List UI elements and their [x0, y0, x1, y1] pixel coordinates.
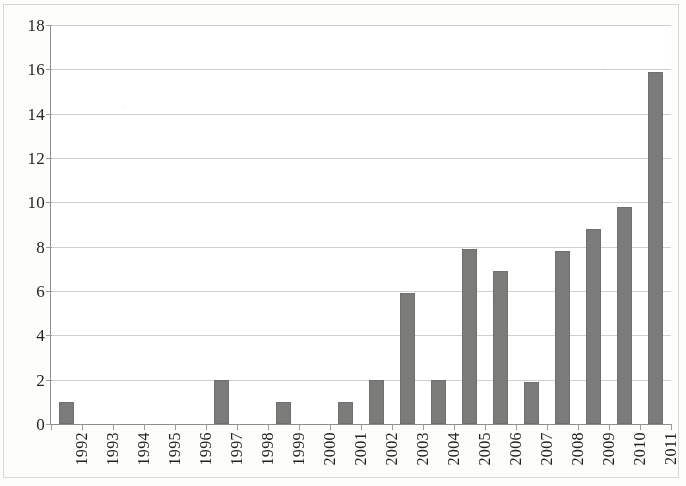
y-tick-mark-14 — [46, 114, 52, 115]
x-tick-label-1992: 1992 — [74, 432, 90, 486]
x-tick-mark-11 — [392, 424, 393, 430]
bar-1999 — [276, 402, 291, 424]
gridline-10 — [51, 202, 671, 203]
y-tick-mark-18 — [46, 25, 52, 26]
x-tick-mark-1 — [82, 424, 83, 430]
x-tick-mark-14 — [485, 424, 486, 430]
x-tick-label-2011: 2011 — [663, 432, 679, 486]
x-tick-mark-0 — [51, 424, 52, 430]
x-tick-label-2005: 2005 — [477, 432, 493, 486]
y-tick-label-4: 4 — [5, 327, 45, 344]
bar-2002 — [369, 380, 384, 424]
x-tick-mark-2 — [113, 424, 114, 430]
y-tick-mark-4 — [46, 335, 52, 336]
y-tick-label-12: 12 — [5, 150, 45, 167]
y-tick-mark-12 — [46, 158, 52, 159]
x-tick-mark-9 — [330, 424, 331, 430]
plot-background — [51, 25, 671, 424]
x-tick-mark-16 — [547, 424, 548, 430]
x-tick-mark-6 — [237, 424, 238, 430]
bar-chart-figure: 024681012141618 199219931994199519961997… — [0, 0, 686, 486]
x-tick-mark-15 — [516, 424, 517, 430]
gridline-12 — [51, 158, 671, 159]
y-tick-label-18: 18 — [5, 17, 45, 34]
bar-2009 — [586, 229, 601, 424]
x-tick-label-1998: 1998 — [260, 432, 276, 486]
x-tick-label-2010: 2010 — [632, 432, 648, 486]
bar-2004 — [431, 380, 446, 424]
x-tick-label-2001: 2001 — [353, 432, 369, 486]
bar-1997 — [214, 380, 229, 424]
y-tick-mark-16 — [46, 69, 52, 70]
x-tick-mark-3 — [144, 424, 145, 430]
gridline-6 — [51, 291, 671, 292]
x-tick-label-2007: 2007 — [539, 432, 555, 486]
gridline-14 — [51, 114, 671, 115]
y-tick-label-0: 0 — [5, 416, 45, 433]
x-tick-label-2006: 2006 — [508, 432, 524, 486]
bar-2006 — [493, 271, 508, 424]
x-tick-label-2000: 2000 — [322, 432, 338, 486]
x-tick-mark-10 — [361, 424, 362, 430]
x-tick-label-1997: 1997 — [229, 432, 245, 486]
bar-2007 — [524, 382, 539, 424]
y-tick-label-16: 16 — [5, 61, 45, 78]
x-tick-mark-7 — [268, 424, 269, 430]
y-tick-mark-2 — [46, 380, 52, 381]
y-tick-label-14: 14 — [5, 105, 45, 122]
x-tick-label-1999: 1999 — [291, 432, 307, 486]
gridline-16 — [51, 69, 671, 70]
y-tick-label-10: 10 — [5, 194, 45, 211]
x-tick-mark-12 — [423, 424, 424, 430]
x-tick-label-2004: 2004 — [446, 432, 462, 486]
x-tick-mark-19 — [640, 424, 641, 430]
x-tick-label-1993: 1993 — [105, 432, 121, 486]
y-tick-label-6: 6 — [5, 283, 45, 300]
y-tick-label-2: 2 — [5, 371, 45, 388]
y-axis-line — [50, 25, 51, 425]
gridline-2 — [51, 380, 671, 381]
bar-1992 — [59, 402, 74, 424]
y-tick-mark-6 — [46, 291, 52, 292]
x-tick-mark-8 — [299, 424, 300, 430]
bar-2005 — [462, 249, 477, 424]
x-tick-label-2008: 2008 — [570, 432, 586, 486]
x-tick-mark-4 — [175, 424, 176, 430]
gridline-4 — [51, 335, 671, 336]
x-axis-tick-labels: 1992199319941995199619971998199920002001… — [51, 432, 671, 486]
y-tick-label-8: 8 — [5, 238, 45, 255]
plot-area — [51, 25, 671, 424]
x-tick-mark-13 — [454, 424, 455, 430]
x-tick-label-1995: 1995 — [167, 432, 183, 486]
x-tick-label-2009: 2009 — [601, 432, 617, 486]
y-tick-mark-8 — [46, 247, 52, 248]
y-axis-tick-labels: 024681012141618 — [0, 0, 45, 486]
bar-2010 — [617, 207, 632, 424]
x-tick-label-1994: 1994 — [136, 432, 152, 486]
bar-2003 — [400, 293, 415, 424]
gridline-18 — [51, 25, 671, 26]
bar-2001 — [338, 402, 353, 424]
gridline-8 — [51, 247, 671, 248]
x-axis-tick-marks — [51, 424, 671, 431]
x-tick-label-2003: 2003 — [415, 432, 431, 486]
x-tick-mark-17 — [578, 424, 579, 430]
bar-2008 — [555, 251, 570, 424]
y-tick-mark-10 — [46, 202, 52, 203]
bar-2011 — [648, 72, 663, 424]
x-tick-mark-5 — [206, 424, 207, 430]
x-tick-label-2002: 2002 — [384, 432, 400, 486]
x-tick-label-1996: 1996 — [198, 432, 214, 486]
x-tick-mark-20 — [671, 424, 672, 430]
x-tick-mark-18 — [609, 424, 610, 430]
